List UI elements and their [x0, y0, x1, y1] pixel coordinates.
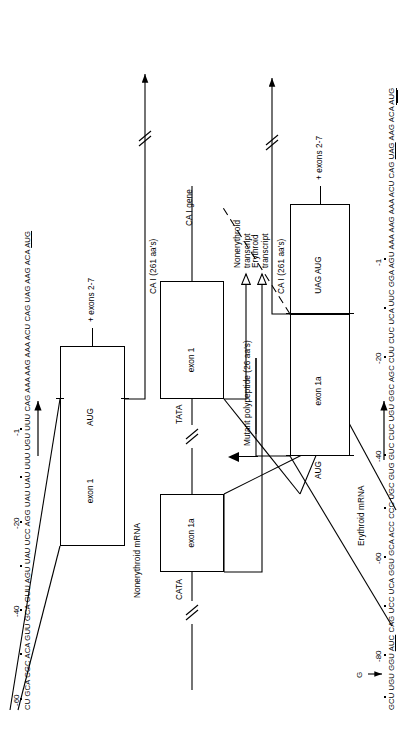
- mutant-polypeptide-bracket: [256, 358, 290, 456]
- nonerythroid-transcript-label-line1: Nonerythroid: [234, 220, 242, 268]
- aug-tick-bottom: [121, 398, 129, 399]
- tick-dot: [384, 455, 386, 457]
- erythroid-mrna-continuation: [320, 186, 321, 204]
- gene-cata-label: CATA: [176, 579, 184, 600]
- tick-dot: [20, 522, 22, 524]
- nonerythroid-exon1-label: exon 1: [86, 451, 95, 531]
- erythroid-uag-aug-label: UAG AUG: [314, 240, 323, 310]
- erythroid-uag-tick-top: [286, 313, 294, 314]
- figure-landscape-layer: CU GCA CGC ACA GUU GCA GUU AGU UAU UCC A…: [0, 0, 404, 746]
- tick-dot: [384, 407, 386, 409]
- nonerythroid-blowup-leads: [10, 399, 60, 710]
- tick-dot: [384, 606, 386, 608]
- erythroid-aug-tick-top: [286, 455, 294, 456]
- figure-canvas: CU GCA CGC ACA GUU GCA GUU AGU UAU UCC A…: [0, 0, 404, 746]
- tick-minus40-erythroid: -40: [374, 450, 383, 462]
- erythroid-mutation-codon: AUC: [387, 635, 396, 651]
- spacer: [352, 553, 353, 554]
- erythroid-upstream-aug-label: AUG: [314, 452, 323, 488]
- erythroid-aug-tick-bottom: [346, 455, 354, 456]
- mutant-polypeptide-label: Mutant polypeptide (26 aa's): [244, 340, 252, 446]
- tick-dot: [384, 308, 386, 310]
- tick-dot: [384, 357, 386, 359]
- tick-dot: [20, 429, 22, 431]
- nonerythroid-sequence: CU GCA CGC ACA GUU GCA GUU AGU UAU UCC A…: [24, 231, 32, 710]
- nonerythroid-mrna-label: Nonerythroid mRNA: [134, 523, 142, 598]
- tick-minus80-erythroid: -80: [374, 650, 383, 662]
- erythroid-start-codon: AUG: [387, 88, 397, 105]
- tick-minus60-nonerythroid: -60: [12, 694, 21, 706]
- tick-dot: [384, 557, 386, 559]
- erythroid-transcript-label-line1: Erythroid: [252, 234, 260, 268]
- nonerythroid-aug-label: AUG: [86, 392, 95, 442]
- erythroid-sequence: GCU UGU GGU AUC CAG UCC UCA GGU GCA ACC …: [388, 88, 396, 710]
- tick-dot: [20, 699, 22, 701]
- erythroid-exon1a-label: exon 1a: [314, 336, 323, 446]
- mutant-polypeptide-arrowhead: [228, 452, 239, 462]
- gene-exon1a-label: exon 1a: [187, 494, 196, 572]
- erythroid-transcript-label-line2: transcript: [262, 233, 270, 268]
- tick-dot: [20, 477, 22, 479]
- erythroid-stop-codon: UAG: [387, 142, 396, 159]
- erythroid-mrna-label: Erythroid mRNA: [358, 485, 366, 546]
- nonerythroid-downstream-exons-label: + exons 2-7: [88, 278, 96, 322]
- mutation-base-label: G: [356, 672, 364, 678]
- tick-dot: [384, 508, 386, 510]
- nonerythroid-product-bracket: [125, 74, 151, 399]
- tick-minus40-nonerythroid: -40: [12, 605, 21, 617]
- tick-dot: [384, 697, 386, 699]
- erythroid-uag-tick-bottom: [346, 313, 354, 314]
- mutant-polypeptide-arrow-shaft: [238, 456, 258, 457]
- tick-minus20-erythroid: -20: [374, 352, 383, 364]
- tick-dot: [384, 259, 386, 261]
- gene-tata-label: TATA: [176, 405, 184, 425]
- tick-minus20-nonerythroid: -20: [12, 517, 21, 529]
- tick-dot: [20, 654, 22, 656]
- mrna-continuation: [92, 328, 93, 346]
- gene-label: CA I gene: [186, 189, 194, 226]
- nonerythroid-product-label: CA I (261 aa's): [150, 239, 158, 294]
- tick-minus60-erythroid: -60: [374, 552, 383, 564]
- tick-dot: [20, 566, 22, 568]
- aug-tick-top: [56, 398, 64, 399]
- tick-minus1-erythroid: -1: [374, 259, 383, 266]
- gene-exon1-label: exon 1: [187, 321, 196, 399]
- tick-dot: [384, 655, 386, 657]
- gene-flanking-lines: [186, 186, 198, 690]
- erythroid-product-label: CA I (261 aa's): [278, 239, 286, 294]
- tick-dot: [20, 610, 22, 612]
- erythroid-downstream-exons-label: + exons 2-7: [316, 136, 324, 180]
